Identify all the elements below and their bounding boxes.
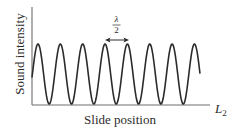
standing-wave-diagram: Sound intensity Slide position L2 λ 2 — [0, 0, 241, 136]
x-axis-end-letter: L — [214, 101, 222, 116]
x-axis-label: Slide position — [84, 112, 156, 127]
half-wavelength-annotation: λ 2 — [105, 14, 129, 43]
x-axis-end-label: L2 — [214, 101, 227, 118]
y-axis-label: Sound intensity — [12, 13, 27, 95]
lambda-numerator: λ — [114, 14, 119, 24]
x-axis-end-subscript: 2 — [222, 108, 227, 118]
lambda-denominator: 2 — [114, 25, 119, 35]
intensity-curve — [32, 44, 200, 104]
